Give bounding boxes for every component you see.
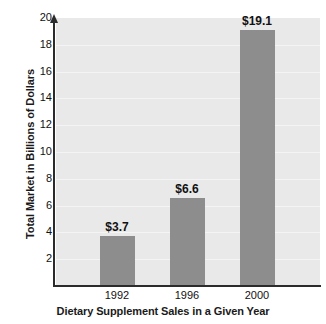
y-tick-label: 8 (28, 173, 52, 184)
bar-value-label: $6.6 (157, 183, 217, 195)
x-tick-label: 1992 (87, 289, 147, 302)
y-tick-label: 2 (28, 253, 52, 264)
plot-area (56, 18, 320, 286)
y-tick-label: 12 (28, 119, 52, 130)
gridline (56, 72, 320, 73)
x-tick-label: 2000 (227, 289, 287, 302)
y-tick-label: 18 (28, 39, 52, 50)
y-axis-line (53, 22, 55, 287)
bar-1996[interactable] (170, 198, 205, 286)
x-axis-title: Dietary Supplement Sales in a Given Year (0, 305, 326, 317)
y-tick-label: 20 (28, 12, 52, 23)
x-tick-label: 1996 (157, 289, 217, 302)
y-tick-label: 10 (28, 146, 52, 157)
y-tick-label: 6 (28, 200, 52, 211)
y-axis-arrow-icon (50, 14, 58, 23)
bar-value-label: $19.1 (227, 15, 287, 27)
bar-chart-figure: Total Market in Billions of Dollars 2468… (0, 0, 326, 324)
gridline (56, 98, 320, 99)
gridline (56, 45, 320, 46)
bar-value-label: $3.7 (87, 221, 147, 233)
x-axis-line (53, 285, 321, 287)
y-axis-tick-labels: 2468101214161820 (28, 0, 52, 324)
y-tick-label: 16 (28, 66, 52, 77)
bar-2000[interactable] (240, 30, 275, 286)
gridline (56, 179, 320, 180)
y-tick-label: 4 (28, 226, 52, 237)
bar-1992[interactable] (100, 236, 135, 286)
y-tick-label: 14 (28, 92, 52, 103)
gridline (56, 152, 320, 153)
gridline (56, 125, 320, 126)
